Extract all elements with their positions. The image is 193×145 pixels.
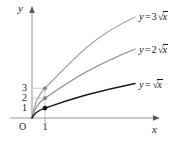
- curve-label-operator: =: [144, 79, 152, 90]
- curve-label-3-sqrt-x: y=3√x: [139, 11, 168, 23]
- curve-y-equals-3-sqrt-x: [32, 17, 135, 118]
- curve-label-lhs: y: [139, 11, 144, 22]
- y-axis-arrowhead: [29, 6, 35, 13]
- radical-symbol: √x: [157, 11, 168, 23]
- marker-point-1-1: [43, 106, 48, 111]
- x-axis-label: x: [152, 124, 157, 135]
- y-axis-label: y: [18, 3, 23, 14]
- radical-argument: x: [157, 79, 163, 91]
- x-tick-label-1: 1: [38, 122, 52, 132]
- x-axis-arrowhead: [153, 115, 160, 121]
- radical-argument: x: [163, 44, 169, 56]
- square-root-functions-figure: y x O 3 2 1 1 y=3√x y=2√x y=√x: [0, 0, 193, 145]
- curve-label-sqrt-x: y=√x: [139, 79, 163, 91]
- origin-label: O: [19, 122, 26, 132]
- y-tick-label-1: 1: [13, 103, 27, 113]
- marker-point-1-2: [43, 96, 47, 100]
- curve-label-operator: =: [144, 11, 152, 22]
- radical-symbol: √x: [157, 44, 168, 56]
- radical-symbol: √x: [152, 79, 163, 91]
- marker-point-1-3: [43, 86, 47, 90]
- curve-label-operator: =: [144, 44, 152, 55]
- radical-argument: x: [163, 11, 169, 23]
- curve-label-lhs: y: [139, 44, 144, 55]
- curve-y-equals-sqrt-x: [32, 84, 135, 119]
- curve-label-lhs: y: [139, 79, 144, 90]
- curve-label-2-sqrt-x: y=2√x: [139, 44, 168, 56]
